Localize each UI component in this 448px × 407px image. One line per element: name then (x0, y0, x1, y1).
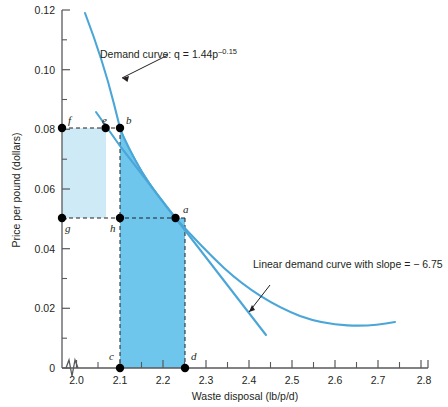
y-axis-major-ticks (62, 10, 70, 368)
y-tick-label: 0.06 (35, 183, 56, 195)
x-tick-label: 2.1 (113, 374, 128, 386)
shaded-region-light-blue (62, 128, 106, 218)
data-point-label-f: f (68, 114, 73, 126)
data-point-a (171, 214, 179, 222)
x-axis-title: Waste disposal (lb/p/d) (192, 390, 298, 402)
data-point-label-d: d (191, 350, 197, 362)
chart-figure: 0.12 0.10 0.08 0.06 0.04 0.02 0 (0, 0, 448, 407)
data-point-label-e: e (102, 114, 107, 126)
x-tick-label: 2.0 (69, 374, 84, 386)
x-tick-label: 2.3 (199, 374, 214, 386)
data-point-label-b: b (126, 114, 132, 126)
data-point-label-h: h (110, 222, 116, 234)
data-point-label-g: g (65, 222, 71, 234)
x-axis-tick-labels: 2.0 2.1 2.2 2.3 2.4 2.5 2.6 2.7 2.8 (69, 374, 431, 386)
y-tick-label: 0.04 (35, 243, 56, 255)
y-tick-label: 0.10 (35, 64, 56, 76)
x-tick-label: 2.7 (371, 374, 386, 386)
y-tick-label: 0.02 (35, 302, 56, 314)
x-tick-label: 2.2 (156, 374, 171, 386)
data-point-label-a: a (183, 203, 189, 215)
data-point-f (58, 124, 66, 132)
annotation-linear-demand-curve: Linear demand curve with slope = − 6.75 (249, 258, 443, 312)
y-axis-tick-labels: 0.12 0.10 0.08 0.06 0.04 0.02 0 (35, 4, 56, 374)
y-tick-label: 0.08 (35, 123, 56, 135)
x-tick-label: 2.8 (417, 374, 432, 386)
annotation-demand-curve-label: Demand curve: q = 1.44p–0.15 (100, 47, 237, 60)
y-axis-title: Price per pound (dollars) (10, 133, 22, 248)
data-point-label-c: c (109, 350, 114, 362)
annotation-demand-curve: Demand curve: q = 1.44p–0.15 (100, 47, 237, 82)
chart-svg: 0.12 0.10 0.08 0.06 0.04 0.02 0 (0, 0, 448, 407)
data-point-g (58, 214, 66, 222)
data-point-c (116, 364, 124, 372)
shaded-region-dark-blue (120, 128, 185, 368)
data-point-d (181, 364, 189, 372)
x-tick-label: 2.4 (242, 374, 257, 386)
y-tick-label: 0 (49, 362, 55, 374)
axes (62, 10, 428, 368)
annotation-linear-demand-curve-label: Linear demand curve with slope = − 6.75 (253, 258, 443, 270)
y-tick-label: 0.12 (35, 4, 56, 16)
data-point-h (116, 214, 124, 222)
x-tick-label: 2.5 (285, 374, 300, 386)
x-tick-label: 2.6 (328, 374, 343, 386)
data-point-b (116, 124, 124, 132)
